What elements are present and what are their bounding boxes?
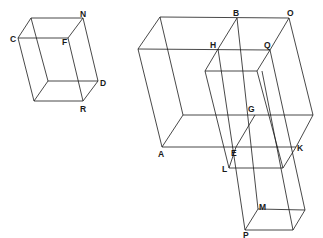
small-box-labels: N C F D R xyxy=(10,9,106,114)
label-C: C xyxy=(10,34,16,44)
label-L: L xyxy=(222,164,227,174)
label-F: F xyxy=(62,37,67,47)
label-D: D xyxy=(100,78,106,88)
label-K: K xyxy=(297,143,304,153)
label-H: H xyxy=(210,40,216,50)
large-figure-labels: B O H Q G A E K L M P xyxy=(158,8,304,238)
diagram-canvas: N C F D R B O H Q G A E K L M P xyxy=(0,0,323,238)
label-G: G xyxy=(248,104,255,114)
label-Q: Q xyxy=(264,40,271,50)
label-B: B xyxy=(233,8,239,18)
small-box xyxy=(18,18,98,101)
label-O: O xyxy=(287,8,294,18)
label-N: N xyxy=(80,9,86,19)
label-A: A xyxy=(158,149,164,159)
label-P: P xyxy=(243,230,249,238)
label-R: R xyxy=(80,104,86,114)
label-E: E xyxy=(231,148,237,158)
label-M: M xyxy=(259,202,266,212)
